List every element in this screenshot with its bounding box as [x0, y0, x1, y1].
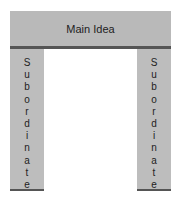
left-pillar-base — [10, 189, 44, 191]
letter: u — [24, 69, 30, 81]
letter: n — [151, 142, 157, 154]
letter: i — [26, 130, 28, 142]
letter: t — [153, 167, 156, 179]
letter: t — [26, 167, 29, 179]
letter: u — [151, 69, 157, 81]
letter: r — [25, 106, 28, 118]
letter: r — [152, 106, 155, 118]
letter: a — [151, 155, 157, 167]
left-subordinate-pillar: S u b o r d i n a t e — [10, 49, 44, 189]
right-subordinate-pillar: S u b o r d i n a t e — [137, 49, 171, 189]
letter: S — [24, 57, 31, 69]
letter: S — [151, 57, 158, 69]
right-pillar-base — [137, 189, 171, 191]
letter: b — [24, 81, 30, 93]
main-idea-block: Main Idea — [10, 11, 171, 46]
letter: i — [153, 130, 155, 142]
letter: d — [151, 118, 157, 130]
letter: o — [24, 94, 30, 106]
letter: b — [151, 81, 157, 93]
letter: a — [24, 155, 30, 167]
letter: d — [24, 118, 30, 130]
letter: o — [151, 94, 157, 106]
letter: n — [24, 142, 30, 154]
main-idea-label: Main Idea — [66, 23, 114, 35]
